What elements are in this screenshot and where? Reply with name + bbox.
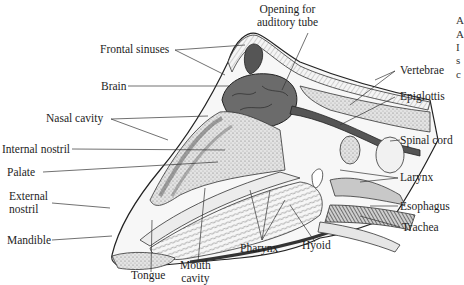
mandible (112, 252, 175, 269)
label-epiglottis: Epiglottis (400, 90, 445, 103)
label-line: Mouth (180, 259, 211, 272)
label-brain: Brain (101, 80, 127, 93)
label-hyoid: Hyoid (302, 239, 331, 252)
edge-text-fragment: I (456, 41, 460, 53)
label-larynx: Larynx (400, 171, 433, 184)
label-line: cavity (180, 272, 211, 285)
edge-text-fragment: s (456, 54, 460, 66)
label-internal-nostril: Internal nostril (2, 143, 70, 156)
label-pharynx: Pharynx (240, 242, 278, 255)
label-mouth-cavity: Mouth cavity (180, 259, 211, 285)
label-external-nostril: External nostril (9, 190, 48, 216)
label-palate: Palate (7, 166, 35, 179)
label-nasal-cavity: Nasal cavity (46, 112, 103, 125)
label-line: External (9, 190, 48, 203)
label-mandible: Mandible (7, 234, 51, 247)
label-opening-auditory-tube: Opening for auditory tube (257, 3, 318, 29)
label-trachea: Trachea (402, 221, 439, 234)
edge-text-fragment: A (456, 14, 464, 26)
label-esophagus: Esophagus (400, 200, 450, 213)
label-line: nostril (9, 203, 48, 216)
label-line: auditory tube (257, 16, 318, 29)
label-vertebrae: Vertebrae (400, 64, 444, 77)
edge-text-fragment: A (456, 28, 464, 40)
label-line: Opening for (257, 3, 318, 16)
label-spinal-cord: Spinal cord (400, 134, 453, 147)
label-tongue: Tongue (131, 269, 165, 282)
edge-text-fragment: c (456, 68, 461, 80)
label-frontal-sinuses: Frontal sinuses (100, 43, 169, 56)
